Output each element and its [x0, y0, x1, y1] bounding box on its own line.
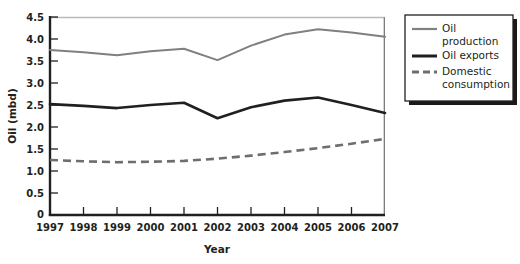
- legend-label-domestic-consumption-line2: consumption: [442, 78, 510, 90]
- x-tick-label-2002: 2002: [204, 222, 232, 233]
- x-tick-label-2001: 2001: [170, 222, 198, 233]
- y-axis-title: Oil (mbd): [6, 88, 18, 143]
- y-tick-label-3-5: 3.5: [26, 56, 44, 67]
- x-tick-label-2006: 2006: [338, 222, 366, 233]
- y-tick-label-1-5: 1.5: [26, 144, 44, 155]
- legend-label-oil-exports: Oil exports: [442, 49, 499, 61]
- y-tick-label-0: 0: [37, 209, 44, 220]
- x-tick-label-1999: 1999: [103, 222, 131, 233]
- y-tick-label-4-5: 4.5: [26, 12, 44, 23]
- x-tick-label-2000: 2000: [137, 222, 165, 233]
- legend: Oil production Oil exports Domestic cons…: [405, 15, 517, 105]
- line-chart-svg: 4.5 4.0 3.5 3.0 2.5 2.0 1.5 1.0 0.5 0 19…: [0, 0, 520, 264]
- x-tick-label-2003: 2003: [237, 222, 265, 233]
- x-tick-label-2007: 2007: [371, 222, 399, 233]
- chart-figure: 4.5 4.0 3.5 3.0 2.5 2.0 1.5 1.0 0.5 0 19…: [0, 0, 520, 264]
- x-axis-title: Year: [203, 243, 231, 255]
- x-tick-label-1997: 1997: [36, 222, 64, 233]
- legend-label-domestic-consumption-line1: Domestic: [442, 65, 492, 77]
- x-tick-label-2004: 2004: [271, 222, 299, 233]
- y-tick-label-3-0: 3.0: [26, 78, 44, 89]
- legend-label-oil-production-line2: production: [442, 35, 498, 47]
- y-tick-label-1-0: 1.0: [26, 166, 44, 177]
- y-tick-label-2-5: 2.5: [26, 100, 44, 111]
- x-tick-label-2005: 2005: [304, 222, 332, 233]
- x-tick-label-1998: 1998: [70, 222, 98, 233]
- y-tick-label-2-0: 2.0: [26, 122, 44, 133]
- legend-label-oil-production-line1: Oil: [442, 22, 456, 34]
- y-tick-label-4-0: 4.0: [26, 34, 44, 45]
- y-tick-label-0-5: 0.5: [26, 188, 44, 199]
